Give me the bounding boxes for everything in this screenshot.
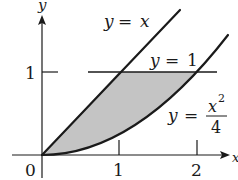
x-tick-label-1: 1	[113, 160, 124, 180]
region-diagram: y x 0 1 2 1 y = x y = 1 y = x 2 4	[0, 0, 238, 180]
label-parabola-lhs: y	[167, 105, 178, 125]
label-parabola-eq: =	[184, 105, 198, 125]
label-y-equals-x: y = x	[103, 11, 150, 31]
label-parabola: y = x 2 4	[167, 92, 227, 137]
label-y-equals-1-lhs: y	[149, 50, 160, 70]
label-y-equals-1-rhs: 1	[187, 50, 198, 70]
label-y-equals-1-eq: =	[165, 50, 179, 70]
label-y-equals-1: y = 1	[149, 50, 198, 70]
origin-label: 0	[25, 160, 36, 180]
x-tick-label-2: 2	[191, 160, 202, 180]
y-tick-label-1: 1	[25, 63, 36, 83]
label-y-equals-x-lhs: y	[103, 11, 114, 31]
y-axis-label: y	[37, 0, 47, 14]
label-y-equals-x-eq: =	[118, 11, 132, 31]
label-y-equals-x-rhs: x	[140, 11, 150, 31]
label-parabola-numerator: x	[208, 97, 217, 116]
label-parabola-denominator: 4	[211, 118, 221, 137]
label-parabola-exponent: 2	[218, 92, 225, 105]
x-axis-label: x	[232, 150, 238, 165]
